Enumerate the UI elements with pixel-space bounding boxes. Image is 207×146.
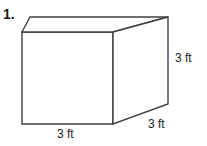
dimension-label-width: 3 ft bbox=[57, 128, 74, 140]
dimension-label-depth: 3 ft bbox=[148, 118, 165, 130]
prism-right-face bbox=[113, 17, 168, 124]
prism-front-face bbox=[22, 32, 113, 124]
dimension-label-height: 3 ft bbox=[175, 52, 192, 64]
rectangular-prism-diagram bbox=[0, 0, 207, 146]
worksheet-figure-page: 1. 3 ft 3 ft 3 ft bbox=[0, 0, 207, 146]
